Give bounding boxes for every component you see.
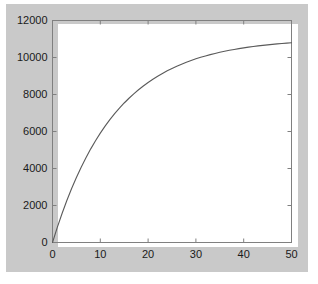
x-tick-label: 40 [224, 249, 264, 260]
axes-plot-area [58, 24, 298, 247]
x-tick-label: 20 [128, 249, 168, 260]
x-tick-label: 0 [33, 249, 73, 260]
y-tick-label: 0 [41, 237, 47, 248]
y-tick-label: 10000 [17, 52, 48, 63]
y-tick-label: 4000 [23, 163, 47, 174]
y-tick-label: 12000 [17, 15, 48, 26]
x-tick-label: 50 [272, 249, 312, 260]
y-tick-label: 6000 [23, 126, 47, 137]
x-tick-label: 10 [80, 249, 120, 260]
y-tick-label: 8000 [23, 89, 47, 100]
figure-root: 020004000600080001000012000 01020304050 [0, 0, 318, 284]
figure-canvas [6, 4, 308, 272]
y-tick-label: 2000 [23, 200, 47, 211]
x-tick-label: 30 [176, 249, 216, 260]
